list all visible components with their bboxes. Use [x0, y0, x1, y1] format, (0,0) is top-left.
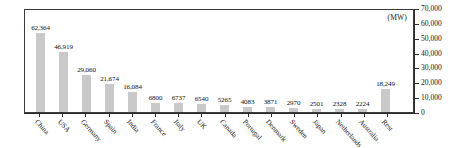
bar-group: 2501: [305, 14, 328, 112]
y-axis-tick-label: 60,000: [421, 20, 442, 28]
x-axis-tick: [201, 113, 202, 117]
x-axis-tick: [387, 113, 388, 117]
bar-group: 18,249: [374, 14, 397, 112]
x-axis-label-slot: Spain: [98, 118, 121, 148]
x-axis-tick: [225, 113, 226, 117]
x-axis-tick: [248, 113, 249, 117]
x-axis-label-slot: Canada: [214, 118, 237, 148]
bar: [151, 103, 160, 112]
bar-value-label: 6540: [195, 95, 209, 103]
bar: [312, 109, 321, 112]
x-axis-label-slot: France: [144, 118, 167, 148]
x-axis-label-slot: UK: [190, 118, 213, 148]
x-axis-tick-label: India: [125, 118, 141, 134]
bar: [128, 92, 137, 112]
bar-group: 2970: [282, 14, 305, 112]
bar-group: 3871: [259, 14, 282, 112]
bar-value-label: 5265: [218, 96, 232, 104]
bar: [358, 109, 367, 112]
bar-group: 6737: [167, 14, 190, 112]
bar-value-label: 6737: [172, 94, 186, 102]
x-axis-tick: [109, 113, 110, 117]
bar-group: 2224: [351, 14, 374, 112]
x-axis-label-slot: Netherlands: [329, 118, 352, 148]
x-axis-label-slot: Sweden: [283, 118, 306, 148]
x-axis-tick-label: Rest: [380, 118, 394, 133]
bar-group: 21,674: [98, 14, 121, 112]
bar: [82, 75, 91, 112]
bar-group: 62,364: [29, 14, 52, 112]
x-axis-tick: [364, 113, 365, 117]
y-axis-tick: [415, 9, 419, 10]
y-axis-tick-label: 0: [421, 109, 425, 117]
bar: [381, 89, 390, 112]
x-axis-tick: [341, 113, 342, 117]
bar-group: 2328: [328, 14, 351, 112]
x-axis-tick: [294, 113, 295, 117]
x-axis-tick: [62, 113, 63, 117]
bar-value-label: 16,084: [123, 83, 142, 91]
x-axis-label-slot: Australia: [353, 118, 376, 148]
y-axis-tick: [415, 68, 419, 69]
bar-chart: (MW) 62,36446,91929,06021,67416,08468006…: [0, 0, 455, 148]
bar-value-label: 18,249: [376, 80, 395, 88]
plot-area-frame: (MW) 62,36446,91929,06021,67416,08468006…: [24, 9, 414, 113]
bar-group: 4083: [236, 14, 259, 112]
x-axis-tick: [155, 113, 156, 117]
x-axis-tick-label: USA: [56, 118, 72, 134]
bar-value-label: 6800: [149, 94, 163, 102]
x-axis-label-slot: Portugal: [237, 118, 260, 148]
x-axis-label-slot: Germany: [74, 118, 97, 148]
bar-group: 5265: [213, 14, 236, 112]
bar-value-label: 62,364: [31, 24, 50, 32]
bar: [59, 52, 68, 112]
bar-value-label: 4083: [241, 98, 255, 106]
bar-value-label: 2328: [333, 100, 347, 108]
bar-value-label: 29,060: [77, 66, 96, 74]
x-axis-label-slot: USA: [51, 118, 74, 148]
x-axis-tick: [132, 113, 133, 117]
y-axis-tick-label: 50,000: [421, 35, 442, 43]
x-axis-tick: [39, 113, 40, 117]
bar: [335, 109, 344, 112]
x-axis-ticks: [28, 113, 399, 117]
bar-value-label: 21,674: [100, 75, 119, 83]
bar: [243, 107, 252, 112]
y-axis-tick: [415, 113, 419, 114]
bar-group: 6800: [144, 14, 167, 112]
bar-group: 16,084: [121, 14, 144, 112]
y-axis-tick-label: 40,000: [421, 50, 442, 58]
bar-group: 6540: [190, 14, 213, 112]
bar: [174, 103, 183, 112]
x-axis-tick: [178, 113, 179, 117]
x-axis-label-slot: India: [121, 118, 144, 148]
bar-value-label: 46,919: [54, 43, 73, 51]
bar-value-label: 3871: [264, 98, 278, 106]
y-axis-tick: [415, 54, 419, 55]
x-axis-tick-label: Japan: [311, 118, 328, 136]
x-axis-label-slot: Rest: [376, 118, 399, 148]
y-axis-tick: [415, 39, 419, 40]
bar-value-label: 2224: [356, 100, 370, 108]
bar: [266, 107, 275, 112]
x-axis-label-slot: China: [28, 118, 51, 148]
x-axis-tick: [85, 113, 86, 117]
bars-container: 62,36446,91929,06021,67416,0846800673765…: [29, 14, 397, 112]
bar: [105, 84, 114, 112]
y-axis-tick-label: 10,000: [421, 94, 442, 102]
x-axis-tick-label: France: [149, 118, 168, 138]
x-axis-tick: [317, 113, 318, 117]
x-axis-label-slot: Italy: [167, 118, 190, 148]
x-axis-tick-label: Canada: [218, 118, 238, 139]
y-axis-tick: [415, 24, 419, 25]
x-axis-tick-label: China: [33, 118, 50, 136]
bar-value-label: 2970: [287, 99, 301, 107]
x-axis-tick-label: Spain: [102, 118, 119, 136]
x-axis-tick-label: Italy: [172, 118, 187, 133]
x-axis-label-slot: Japan: [306, 118, 329, 148]
y-axis-tick-label: 20,000: [421, 79, 442, 87]
y-axis-tick: [415, 83, 419, 84]
bar-group: 46,919: [52, 14, 75, 112]
bar-value-label: 2501: [310, 100, 324, 108]
y-axis-tick: [415, 98, 419, 99]
